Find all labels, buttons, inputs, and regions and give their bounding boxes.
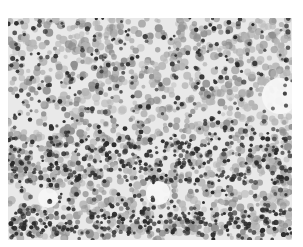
micrograph-image [8, 18, 292, 240]
cell-field [8, 18, 292, 240]
